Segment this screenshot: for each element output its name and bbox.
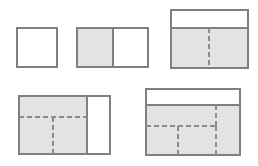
region-top-band-unshaded	[146, 89, 240, 105]
region-top-band-unshaded	[171, 10, 248, 28]
figure-5	[146, 89, 240, 155]
area-model-figure-canvas	[0, 0, 258, 166]
figure-3	[171, 10, 248, 68]
figure-1	[17, 28, 57, 67]
region-right-unshaded-column	[87, 96, 110, 154]
region-right-half-unshaded	[113, 28, 148, 67]
region-body-shaded	[146, 105, 240, 155]
region-whole	[17, 28, 57, 67]
figure-4	[19, 96, 110, 154]
region-left-half-shaded	[77, 28, 113, 67]
figure-2	[77, 28, 148, 67]
